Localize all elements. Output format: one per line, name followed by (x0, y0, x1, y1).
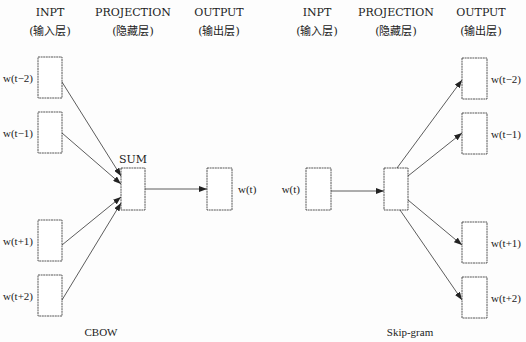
cbow-output-subheader: (输出层) (198, 24, 240, 38)
skipgram-output-label-3: w(t+1) (491, 237, 521, 250)
cbow-edge-1 (62, 82, 121, 176)
cbow-input-label-1: w(t−2) (3, 72, 33, 85)
cbow-input-box-2 (38, 112, 62, 153)
skipgram-projection-box (384, 168, 408, 210)
skipgram-output-label-4: w(t+2) (491, 292, 521, 305)
skipgram-input-label: w(t) (282, 183, 301, 196)
cbow-input-box-3 (38, 220, 62, 261)
skipgram-output-box-4 (462, 277, 487, 318)
skipgram-input-box (306, 168, 331, 210)
skipgram-headers: INPT (输入层) PROJECTION (隐藏层) OUTPUT (输出层) (296, 6, 506, 38)
cbow-edge-4 (62, 203, 121, 300)
cbow-projection-box (121, 168, 145, 210)
skipgram-output-box-3 (462, 222, 487, 263)
skipgram-output-subheader: (输出层) (460, 24, 502, 38)
skipgram-edge-4 (400, 210, 462, 300)
skipgram-caption: Skip-gram (387, 326, 434, 338)
cbow-output-header: OUTPUT (194, 6, 244, 19)
cbow-projection-header: PROJECTION (95, 6, 171, 19)
skipgram-input-subheader: (输入层) (296, 24, 338, 38)
skipgram-input-header: INPT (303, 6, 332, 19)
skipgram-output-header: OUTPUT (456, 6, 506, 19)
word2vec-diagram: INPT (输入层) PROJECTION (隐藏层) OUTPUT (输出层)… (0, 0, 526, 342)
diagram-svg: INPT (输入层) PROJECTION (隐藏层) OUTPUT (输出层)… (0, 0, 526, 342)
skipgram-edge-1 (397, 80, 462, 168)
cbow-edge-2 (62, 133, 121, 184)
skipgram-output-box-1 (462, 58, 487, 99)
skipgram-outputs: w(t−2) w(t−1) w(t+1) w(t+2) (462, 58, 521, 318)
cbow-projection-subheader: (隐藏层) (112, 25, 154, 38)
skipgram-edge-2 (408, 133, 462, 176)
cbow-input-header: INPT (36, 6, 65, 19)
cbow-inputs: w(t−2) w(t−1) w(t+1) w(t+2) (3, 57, 62, 316)
skipgram-output-box-2 (462, 113, 487, 154)
cbow-input-box-1 (38, 57, 62, 98)
skipgram-output-label-2: w(t−1) (491, 128, 521, 141)
cbow-caption: CBOW (85, 326, 119, 338)
skipgram-output-label-1: w(t−2) (491, 73, 521, 86)
cbow-output-label: w(t) (238, 183, 257, 196)
cbow-sum-label: SUM (119, 153, 147, 166)
cbow-input-label-2: w(t−1) (3, 127, 33, 140)
cbow-headers: INPT (输入层) PROJECTION (隐藏层) OUTPUT (输出层) (29, 6, 244, 38)
skipgram-projection-header: PROJECTION (358, 6, 434, 19)
cbow-input-box-4 (38, 275, 62, 316)
cbow-edge-3 (62, 197, 121, 245)
skipgram-edge-3 (408, 200, 462, 245)
cbow-input-label-4: w(t+2) (3, 290, 33, 303)
skipgram-projection-subheader: (隐藏层) (375, 25, 417, 38)
cbow-output-box (207, 168, 232, 210)
cbow-input-subheader: (输入层) (29, 24, 71, 38)
cbow-input-label-3: w(t+1) (3, 235, 33, 248)
